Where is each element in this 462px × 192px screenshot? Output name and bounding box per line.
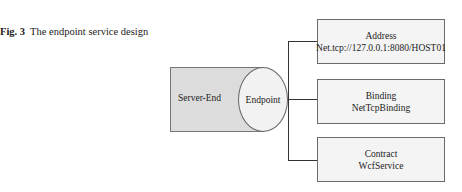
connector-address bbox=[288, 41, 318, 42]
figure-label: Fig. 3 bbox=[0, 26, 25, 37]
contract-title: Contract bbox=[365, 148, 398, 160]
figure-caption: Fig. 3The endpoint service design bbox=[0, 26, 150, 38]
connector-endpoint-horizontal bbox=[288, 99, 318, 100]
endpoint-label: Endpoint bbox=[246, 95, 281, 105]
endpoint-ellipse: Endpoint bbox=[238, 67, 288, 132]
binding-box: Binding NetTcpBinding bbox=[317, 79, 445, 124]
binding-title: Binding bbox=[366, 90, 397, 102]
binding-value: NetTcpBinding bbox=[352, 102, 410, 114]
address-box: Address Net.tcp://127.0.0.1:8080/HOST01 bbox=[317, 19, 445, 64]
connector-contract bbox=[288, 160, 318, 161]
address-value: Net.tcp://127.0.0.1:8080/HOST01 bbox=[316, 42, 446, 54]
contract-value: WcfService bbox=[359, 160, 404, 172]
connector-vertical bbox=[288, 41, 289, 161]
address-title: Address bbox=[365, 30, 396, 42]
server-end-label: Server-End bbox=[178, 93, 221, 103]
figure-title: The endpoint service design bbox=[30, 26, 148, 37]
contract-box: Contract WcfService bbox=[317, 137, 445, 182]
